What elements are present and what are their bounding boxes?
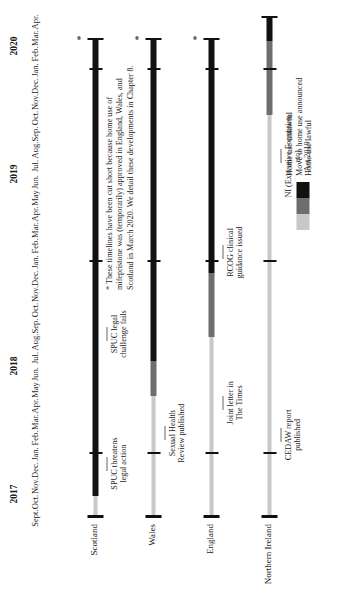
axis-month-label: Oct.: [30, 111, 39, 125]
axis-month-label: Jun.: [30, 175, 39, 189]
axis-month-label: May: [30, 190, 39, 206]
axis-year-label: 2020: [8, 37, 18, 56]
axis-month-label: Nov.: [30, 94, 39, 110]
legend: Home use unlawfulMove to home use announ…: [296, 30, 342, 230]
year-tick: [263, 260, 276, 262]
legend-swatch: [296, 198, 309, 214]
legend-label: Home use lawful: [303, 78, 313, 176]
timeline-segment: [151, 396, 155, 518]
annotation-leader-line: [106, 457, 107, 471]
axis-month-label: Jul.: [30, 352, 39, 364]
year-tick: [147, 260, 160, 262]
timeline-row: Wales*Sexual Health Review published: [150, 0, 184, 590]
timeline-start-cap: [87, 516, 103, 519]
annotation-leader-line: [106, 327, 107, 341]
axis-month-label: Aug.: [30, 142, 39, 159]
axis-month-label: Apr.: [30, 207, 39, 222]
annotation-label: Joint letter in The Times: [225, 361, 244, 445]
year-tick: [205, 68, 218, 70]
timeline-start-cap: [203, 516, 219, 519]
timeline-segment: [208, 273, 214, 337]
annotation-label: RCOG clinical guidance issued: [225, 210, 244, 294]
annotation-leader-line: [280, 149, 281, 163]
axis-year-label: 2018: [8, 357, 18, 376]
timeline-end-cap: [145, 38, 161, 41]
timeline-figure: Sept.Oct.Nov.Dec.Jan.Feb.Mar.Apr.MayJun.…: [0, 0, 347, 590]
legend-label: Home use unlawful: [284, 78, 294, 176]
axis-month-label: Sep.: [30, 127, 39, 142]
timeline-track: *: [150, 0, 156, 590]
legend-swatches: [296, 182, 309, 230]
annotation-label: Sexual Health Review published: [167, 391, 186, 475]
timeline-track: [266, 0, 272, 590]
timeline-segment: [208, 38, 214, 273]
timeline-segment: [92, 38, 98, 496]
axis-month-label: Apr.: [30, 399, 39, 414]
axis-month-label: Feb.: [30, 47, 39, 62]
legend-swatch: [296, 182, 309, 198]
truncation-asterisk: *: [75, 36, 85, 41]
axis-month-label: Jan.: [30, 255, 39, 268]
legend-label: Move to home use announced: [294, 78, 304, 176]
year-tick: [205, 260, 218, 262]
timeline-end-cap: [203, 38, 219, 41]
annotation-leader-line: [222, 245, 223, 259]
axis-month-label: Feb.: [30, 239, 39, 254]
timeline-segment: [267, 115, 271, 518]
timeline-segment: [150, 38, 156, 361]
axis-month-label: Jan.: [30, 447, 39, 460]
figure-stage: Sept.Oct.Nov.Dec.Jan.Feb.Mar.Apr.MayJun.…: [0, 0, 347, 590]
year-tick: [147, 68, 160, 70]
axis-month-label: Oct.: [30, 495, 39, 509]
truncation-asterisk: *: [133, 36, 143, 41]
axis-month-label: Nov.: [30, 478, 39, 494]
axis-month-label: Apr.: [30, 15, 39, 30]
year-tick: [89, 452, 102, 454]
axis-month-label: Jan.: [30, 63, 39, 76]
axis-month-label: Feb.: [30, 431, 39, 446]
footnote: * These timelines have been cut short be…: [104, 58, 135, 290]
legend-swatch: [296, 214, 309, 230]
timeline-end-cap: [261, 16, 277, 19]
axis-month-label: Oct.: [30, 303, 39, 317]
annotation-label: SPUC legal challenge fails: [109, 292, 128, 376]
truncation-asterisk: *: [191, 36, 201, 41]
year-tick: [263, 452, 276, 454]
annotation-leader-line: [280, 428, 281, 442]
axis-month-label: Dec.: [30, 270, 39, 286]
year-tick: [147, 452, 160, 454]
year-tick: [89, 68, 102, 70]
annotation-label: SPUC threatens legal action: [109, 422, 128, 506]
annotation-label: CEDAW report published: [283, 393, 302, 477]
year-tick: [205, 452, 218, 454]
axis-month-label: Jun.: [30, 367, 39, 381]
axis-year-label: 2017: [8, 485, 18, 504]
year-tick: [89, 260, 102, 262]
legend-labels: Home use unlawfulMove to home use announ…: [284, 78, 313, 176]
timeline-start-cap: [145, 516, 161, 519]
year-tick: [263, 68, 276, 70]
axis-month-label: Sept.: [30, 509, 39, 526]
annotation-leader-line: [164, 426, 165, 440]
timeline-track: *: [208, 0, 214, 590]
axis-month-label: Sep.: [30, 319, 39, 334]
timeline-row: England*Joint letter in The TimesRCOG cl…: [208, 0, 242, 590]
timeline-segment: [150, 361, 156, 396]
timeline-segment: [266, 41, 272, 115]
time-axis: Sept.Oct.Nov.Dec.Jan.Feb.Mar.Apr.MayJun.…: [0, 0, 60, 590]
timeline-segment: [266, 16, 272, 42]
axis-month-label: Nov.: [30, 286, 39, 302]
axis-month-label: Mar.: [30, 414, 39, 430]
timeline-end-cap: [87, 38, 103, 41]
timeline-segment: [209, 337, 213, 518]
axis-year-label: 2019: [8, 165, 18, 184]
annotation-leader-line: [222, 396, 223, 410]
axis-month-label: May: [30, 382, 39, 398]
axis-month-label: Mar.: [30, 30, 39, 46]
timeline-start-cap: [261, 516, 277, 519]
timeline-track: *: [92, 0, 98, 590]
axis-month-label: Dec.: [30, 78, 39, 94]
axis-month-label: Aug.: [30, 334, 39, 351]
axis-month-label: Mar.: [30, 222, 39, 238]
axis-month-label: Dec.: [30, 462, 39, 478]
